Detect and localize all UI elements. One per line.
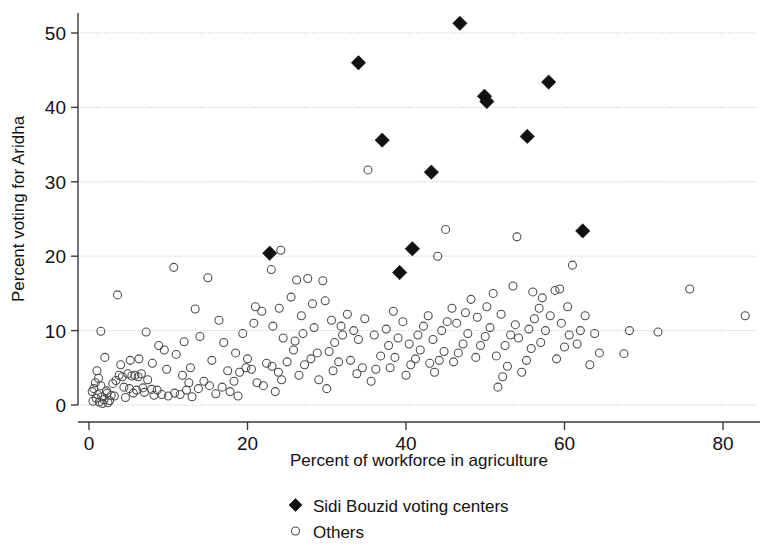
x-axis-title: Percent of workforce in agriculture (290, 451, 548, 470)
data-point-other (335, 358, 343, 366)
data-point-sidi-bouzid (453, 16, 467, 30)
data-point-other (546, 312, 554, 320)
data-point-other (440, 347, 448, 355)
x-tick-label-80: 80 (712, 433, 733, 454)
data-point-other (535, 304, 543, 312)
data-point-other (224, 367, 232, 375)
data-point-other (97, 327, 105, 335)
data-point-other (492, 352, 500, 360)
data-point-other (120, 383, 128, 391)
data-point-other (389, 307, 397, 315)
data-point-other (364, 166, 372, 174)
data-point-other (179, 371, 187, 379)
data-point-other (686, 285, 694, 293)
data-point-other (557, 319, 565, 327)
data-point-other (581, 312, 589, 320)
data-point-other (250, 319, 258, 327)
data-point-other (186, 364, 194, 372)
data-point-other (385, 341, 393, 349)
data-point-other (565, 331, 573, 339)
data-point-other (591, 330, 599, 338)
data-point-other (259, 382, 267, 390)
data-point-sidi-bouzid (541, 75, 555, 89)
data-point-sidi-bouzid (424, 165, 438, 179)
data-point-other (117, 361, 125, 369)
x-tick-label-60: 60 (554, 433, 575, 454)
data-point-other (416, 346, 424, 354)
data-point-other (568, 261, 576, 269)
data-point-sidi-bouzid (392, 265, 406, 279)
data-point-other (530, 315, 538, 323)
data-point-other (295, 371, 303, 379)
y-tick-label-40: 40 (45, 97, 66, 118)
data-point-other (370, 331, 378, 339)
chart-legend: Sidi Bouzid voting centers Others (289, 497, 509, 542)
data-point-other (556, 285, 564, 293)
data-point-other (242, 364, 250, 372)
data-point-other (208, 356, 216, 364)
data-point-sidi-bouzid (375, 133, 389, 147)
gridlines (78, 33, 757, 405)
data-point-other (459, 340, 467, 348)
data-point-other (142, 328, 150, 336)
data-point-other (435, 356, 443, 364)
data-point-other (313, 349, 321, 357)
data-point-other (234, 392, 242, 400)
data-point-other (319, 277, 327, 285)
data-point-other (310, 324, 318, 332)
data-point-other (414, 331, 422, 339)
data-point-other (163, 365, 171, 373)
data-point-other (367, 377, 375, 385)
data-point-other (347, 356, 355, 364)
data-point-other (194, 385, 202, 393)
data-point-other (331, 339, 339, 347)
data-point-other (101, 353, 109, 361)
data-point-other (501, 341, 509, 349)
data-point-other (200, 377, 208, 385)
data-point-other (274, 368, 282, 376)
data-point-other (429, 336, 437, 344)
data-point-other (372, 365, 380, 373)
data-point-other (394, 334, 402, 342)
data-point-other (464, 330, 472, 338)
x-tick-label-20: 20 (237, 433, 258, 454)
data-point-other (196, 333, 204, 341)
data-point-other (277, 246, 285, 254)
data-point-other (230, 377, 238, 385)
y-tick-label-0: 0 (55, 395, 66, 416)
data-point-other (308, 300, 316, 308)
data-point-other (135, 355, 143, 363)
data-point-other (278, 376, 286, 384)
data-point-other (354, 336, 362, 344)
data-point-other (315, 376, 323, 384)
data-point-other (212, 390, 220, 398)
series-sidi-bouzid-points (262, 16, 589, 280)
data-point-other (473, 313, 481, 321)
legend-entry-others[interactable]: Others (292, 523, 365, 542)
data-point-other (426, 359, 434, 367)
data-point-other (412, 355, 420, 363)
data-point-other (269, 322, 277, 330)
data-point-other (329, 367, 337, 375)
data-point-other (494, 383, 502, 391)
data-point-other (399, 318, 407, 326)
data-point-other (450, 358, 458, 366)
x-axis-ticks: 020406080 (84, 422, 734, 454)
data-point-other (405, 340, 413, 348)
data-point-other (148, 359, 156, 367)
data-point-other (188, 393, 196, 401)
data-point-other (515, 334, 523, 342)
data-point-other (541, 327, 549, 335)
data-point-other (382, 325, 390, 333)
data-point-other (386, 364, 394, 372)
data-point-other (453, 319, 461, 327)
data-point-other (377, 352, 385, 360)
data-point-other (126, 356, 134, 364)
data-point-other (121, 394, 129, 402)
data-point-other (170, 263, 178, 271)
data-point-other (301, 361, 309, 369)
data-point-sidi-bouzid (262, 246, 276, 260)
legend-entry-sidi-bouzid[interactable]: Sidi Bouzid voting centers (289, 497, 509, 516)
data-point-other (279, 334, 287, 342)
data-point-other (499, 373, 507, 381)
